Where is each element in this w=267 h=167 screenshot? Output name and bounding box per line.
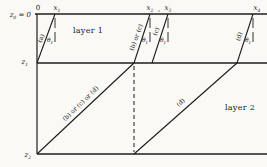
comma-label: , [158, 5, 160, 13]
ray-d-upper-label: (d) [234, 31, 243, 42]
ray-c-label: (c) [151, 26, 160, 36]
x1-label: x1 [54, 4, 61, 13]
z2-label: z2 [23, 151, 31, 160]
x4-label: x4 [254, 4, 261, 13]
layer1-label: layer 1 [73, 26, 103, 35]
theta1-label-x2: θ1 [142, 36, 148, 45]
theta1-label-x3: θ1 [160, 36, 166, 45]
z0-label: z0 = 0 [9, 11, 32, 20]
ray-d-lower-line [134, 63, 237, 154]
figure-canvas: 0 x1 x2 , x3 x4 z0 = 0 z1 z2 layer 1 lay… [0, 0, 267, 167]
theta1-label-x4: θ1 [245, 36, 251, 45]
ray-d-lower-label: (d) [175, 97, 186, 108]
ray-b-or-c-or-d-line [37, 63, 134, 154]
ray-a-label: (a) [36, 33, 45, 43]
theta1-label-x1: θ1 [47, 36, 53, 45]
z1-label: z1 [20, 58, 28, 67]
origin-label: 0 [36, 4, 40, 12]
layer2-label: layer 2 [225, 103, 255, 112]
x2-label: x2 [147, 4, 154, 13]
ray-b-or-c-or-d-label: (b) or (c) or (d) [61, 84, 100, 122]
layered-earth-raypath-diagram: 0 x1 x2 , x3 x4 z0 = 0 z1 z2 layer 1 lay… [0, 0, 267, 167]
x3-label: x3 [165, 4, 172, 13]
